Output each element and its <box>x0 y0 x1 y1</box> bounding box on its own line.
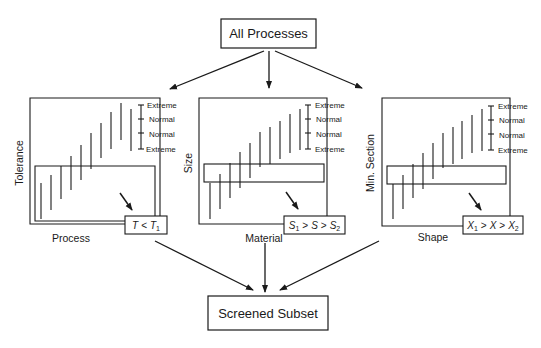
diagram-canvas: All Processes <box>0 0 541 348</box>
scale-label: Extreme <box>147 101 177 110</box>
scale-label: Normal <box>499 131 525 140</box>
range-bars <box>393 109 482 219</box>
x-axis-label: Process <box>52 232 90 244</box>
screen-region <box>35 166 155 221</box>
arrow-from-tolerance <box>155 241 253 290</box>
arrow-from-min-section <box>280 241 379 290</box>
panel-size: Extreme Normal Normal Extreme S1>S>S2 Ma… <box>182 98 345 244</box>
arrow-to-tolerance <box>170 51 264 89</box>
y-axis-label: Size <box>182 153 194 174</box>
pointer-arrow <box>120 193 132 210</box>
x-axis-label: Material <box>245 232 282 244</box>
y-axis-label: Tolerance <box>13 140 25 186</box>
pointer-arrow <box>469 193 481 210</box>
panel-min-section: Extreme Normal Normal Extreme X1>X>X2 Sh… <box>364 98 528 243</box>
screening-diagram: All Processes <box>0 0 541 348</box>
scale-label: Normal <box>316 130 342 139</box>
screen-region <box>387 166 506 184</box>
arrow-to-min-section <box>275 51 362 88</box>
arrows-bottom <box>155 241 379 292</box>
range-bars <box>41 103 131 219</box>
scale-legend: Extreme Normal Normal Extreme <box>488 102 528 155</box>
pointer-arrow <box>286 192 298 209</box>
node-screened-subset-label: Screened Subset <box>218 306 318 321</box>
scale-label: Extreme <box>498 146 528 155</box>
scale-label: Extreme <box>315 101 345 110</box>
scale-label: Normal <box>149 115 175 124</box>
scale-label: Extreme <box>498 102 528 111</box>
node-screened-subset: Screened Subset <box>208 296 328 330</box>
y-axis-label: Min. Section <box>364 134 376 192</box>
node-all-processes-label: All Processes <box>229 26 308 41</box>
scale-label: Extreme <box>315 145 345 154</box>
arrows-top <box>170 51 362 89</box>
scale-label: Normal <box>499 116 525 125</box>
node-all-processes: All Processes <box>221 19 316 48</box>
condition-label: T<T1 <box>132 220 160 232</box>
scale-label: Extreme <box>146 145 176 154</box>
scale-legend: Extreme Normal Normal Extreme <box>138 101 177 154</box>
x-axis-label: Shape <box>418 231 449 243</box>
scale-label: Normal <box>316 115 342 124</box>
panel-tolerance: Extreme Normal Normal Extreme T<T1 Proce… <box>13 98 177 244</box>
scale-legend: Extreme Normal Normal Extreme <box>305 101 345 154</box>
screen-region <box>204 164 324 182</box>
scale-label: Normal <box>149 130 175 139</box>
